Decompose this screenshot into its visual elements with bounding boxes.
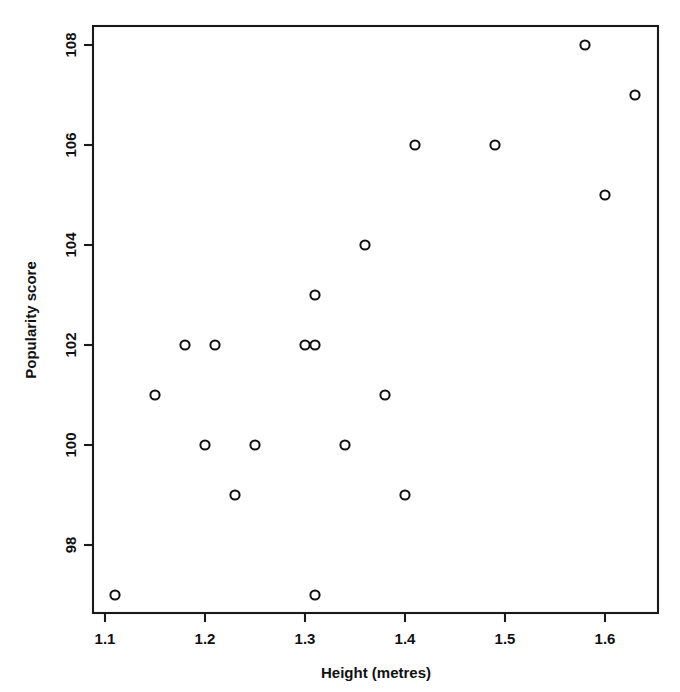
y-tick-label: 102 — [62, 332, 79, 357]
data-point — [490, 140, 499, 149]
data-point — [250, 440, 259, 449]
y-tick-label: 108 — [62, 32, 79, 57]
y-axis-ticks — [84, 45, 93, 545]
x-tick-label: 1.5 — [495, 630, 516, 647]
data-point — [310, 290, 319, 299]
data-point — [630, 90, 639, 99]
y-tick-label: 100 — [62, 432, 79, 457]
data-point — [230, 490, 239, 499]
y-axis-tick-labels: 98 100 102 104 106 108 — [62, 32, 79, 553]
data-point — [340, 440, 349, 449]
data-point — [400, 490, 409, 499]
data-points-layer — [110, 40, 639, 599]
x-tick-label: 1.1 — [95, 630, 116, 647]
scatter-plot-figure: 1.1 1.2 1.3 1.4 1.5 1.6 98 100 102 104 1… — [0, 0, 680, 692]
x-tick-label: 1.4 — [395, 630, 417, 647]
y-axis-title: Popularity score — [22, 261, 39, 379]
data-point — [200, 440, 209, 449]
x-tick-label: 1.6 — [595, 630, 616, 647]
data-point — [580, 40, 589, 49]
data-point — [210, 340, 219, 349]
data-point — [600, 190, 609, 199]
data-point — [300, 340, 309, 349]
x-axis-ticks — [105, 613, 605, 622]
data-point — [310, 590, 319, 599]
y-tick-label: 104 — [62, 232, 79, 258]
data-point — [360, 240, 369, 249]
data-point — [110, 590, 119, 599]
data-point — [410, 140, 419, 149]
y-tick-label: 98 — [62, 537, 79, 554]
plot-frame — [93, 26, 658, 613]
data-point — [180, 340, 189, 349]
data-point — [380, 390, 389, 399]
x-axis-tick-labels: 1.1 1.2 1.3 1.4 1.5 1.6 — [95, 630, 616, 647]
x-axis-title: Height (metres) — [321, 664, 431, 681]
data-point — [310, 340, 319, 349]
x-tick-label: 1.2 — [195, 630, 216, 647]
data-point — [150, 390, 159, 399]
y-tick-label: 106 — [62, 132, 79, 157]
x-tick-label: 1.3 — [295, 630, 316, 647]
plot-canvas: 1.1 1.2 1.3 1.4 1.5 1.6 98 100 102 104 1… — [0, 0, 680, 692]
